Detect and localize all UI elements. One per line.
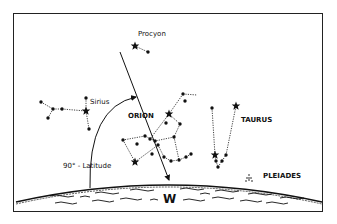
star-dot-icon	[162, 155, 165, 158]
star-dot-icon	[220, 159, 223, 162]
constellation-line	[174, 124, 180, 137]
star-dot-icon	[214, 159, 217, 162]
star-dot-icon	[210, 106, 213, 109]
constellation-line	[123, 140, 135, 162]
constellation-taurus	[210, 102, 240, 169]
pleiades-cluster-icon	[245, 174, 253, 182]
constellation-line	[135, 145, 158, 162]
star-dot-icon	[135, 142, 138, 145]
constellation-line	[123, 136, 145, 140]
star-dot-icon	[172, 135, 175, 138]
star-dot-icon	[189, 152, 192, 155]
star-dot-icon	[178, 122, 181, 125]
star-dot-icon	[216, 165, 219, 168]
star-dot-icon	[183, 99, 186, 102]
label-sirius: Sirius	[90, 98, 110, 106]
star-dot-icon	[51, 107, 54, 110]
constellation-line	[158, 145, 164, 157]
label-pleiades: PLEIADES	[263, 172, 301, 180]
star-dot-icon	[60, 107, 63, 110]
star-dot-icon	[87, 127, 90, 130]
star-dot-icon	[84, 96, 87, 99]
constellation-line	[169, 94, 183, 114]
label-taurus: TAURUS	[241, 116, 272, 124]
bright-star-icon	[131, 158, 140, 166]
constellation-line	[183, 94, 197, 95]
bright-star-icon	[131, 42, 140, 50]
constellation-line	[212, 108, 215, 155]
star-dot-icon	[164, 121, 167, 124]
star-dot-icon	[143, 134, 146, 137]
star-dot-icon	[150, 152, 153, 155]
star-dot-icon	[181, 92, 184, 95]
bright-star-icon	[211, 151, 220, 159]
bright-star-icon	[82, 107, 91, 115]
label-orion: ORION	[128, 112, 154, 120]
bright-star-icon	[232, 102, 241, 110]
constellation-line	[226, 106, 236, 155]
label-direction-west: W	[163, 192, 176, 206]
star-chart: Procyon Sirius ORION TAURUS PLEIADES 90°…	[0, 0, 337, 224]
bright-star-icon	[165, 110, 174, 118]
label-latitude: 90° - Latitude	[63, 162, 111, 170]
constellation-line	[174, 137, 179, 160]
star-dot-icon	[184, 155, 187, 158]
star-dot-icon	[146, 50, 149, 53]
label-procyon: Procyon	[138, 30, 166, 38]
constellation-canis-major	[39, 96, 90, 130]
latitude-arc-arrow	[90, 97, 136, 188]
star-dot-icon	[46, 116, 49, 119]
constellation-procyon-group	[131, 42, 150, 54]
constellation-line	[41, 102, 53, 109]
star-dot-icon	[39, 100, 42, 103]
star-dot-icon	[148, 137, 151, 140]
star-dot-icon	[121, 138, 124, 141]
constellation-line	[155, 137, 174, 141]
star-dot-icon	[153, 139, 156, 142]
star-dot-icon	[177, 158, 180, 161]
star-dot-icon	[224, 153, 227, 156]
constellations	[39, 42, 240, 169]
star-dot-icon	[169, 159, 172, 162]
star-dot-icon	[156, 143, 159, 146]
